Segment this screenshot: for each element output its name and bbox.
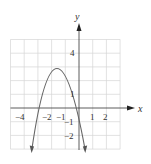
y-tick-label: −1: [64, 117, 74, 127]
y-axis-label: y: [74, 11, 80, 22]
x-axis-label: x: [137, 103, 143, 114]
x-tick-label: −4: [15, 112, 25, 122]
parabola-graph: x y −4 −2 −1 1 2 4 1 −1 −2: [0, 0, 151, 164]
y-axis-arrow-icon: [77, 23, 82, 31]
y-tick-label: 4: [70, 48, 75, 58]
x-tick-label: 1: [90, 112, 95, 122]
x-axis: [11, 106, 136, 111]
x-axis-arrow-icon: [127, 106, 135, 111]
y-tick-label: 1: [70, 89, 75, 99]
y-axis: [77, 23, 82, 150]
x-tick-label: −2: [42, 112, 52, 122]
x-tick-label: 2: [103, 112, 108, 122]
y-tick-label: −2: [64, 131, 74, 141]
